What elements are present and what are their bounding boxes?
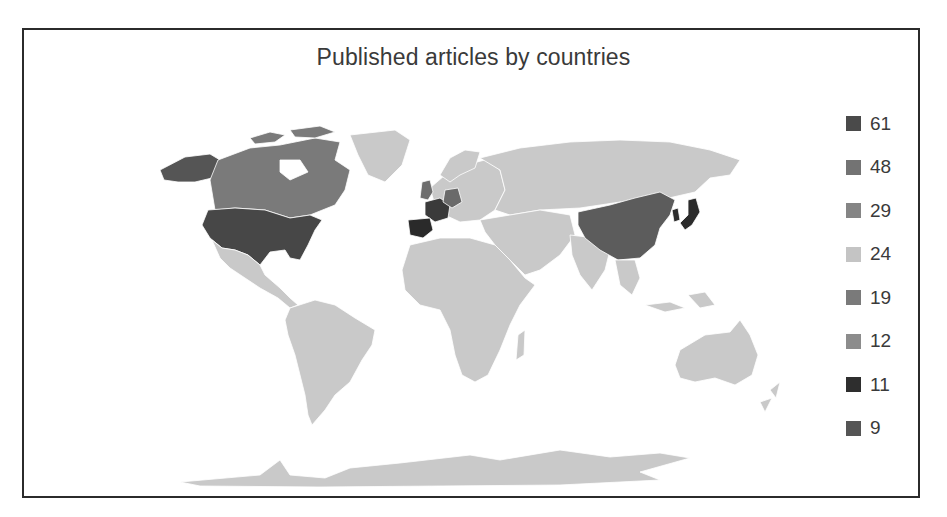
legend-swatch [846,116,861,131]
region-australia [675,320,758,385]
legend-label: 11 [870,374,890,396]
region-south-america [285,300,375,425]
legend-swatch [846,421,861,436]
region-madagascar [516,330,525,360]
region-japan [680,198,700,230]
region-spain [408,218,433,238]
region-new-zealand [760,382,780,412]
legend-label: 29 [870,200,891,222]
region-uk [420,180,433,200]
region-russia [480,140,740,215]
legend-swatch [846,377,861,392]
chart-title: Published articles by countries [0,44,947,71]
legend-item: 11 [846,363,916,407]
legend-item: 9 [846,407,916,451]
legend-swatch [846,247,861,262]
legend-item: 29 [846,189,916,233]
legend-label: 19 [870,287,891,309]
legend-item: 24 [846,233,916,277]
legend-item: 19 [846,276,916,320]
legend-label: 24 [870,243,891,265]
region-antarctica [180,450,690,487]
legend-label: 12 [870,330,891,352]
legend-item: 48 [846,146,916,190]
legend-item: 12 [846,320,916,364]
legend-swatch [846,290,861,305]
legend-swatch [846,334,861,349]
legend-swatch [846,160,861,175]
region-greenland [350,130,410,182]
region-southeast-asia [615,260,715,312]
region-canada [210,138,350,218]
legend-label: 9 [870,417,881,439]
legend: 61 48 29 24 19 12 11 9 [846,102,916,450]
region-korea [672,208,680,222]
world-map [140,120,840,500]
legend-swatch [846,203,861,218]
legend-label: 61 [870,113,891,135]
legend-label: 48 [870,156,891,178]
legend-item: 61 [846,102,916,146]
